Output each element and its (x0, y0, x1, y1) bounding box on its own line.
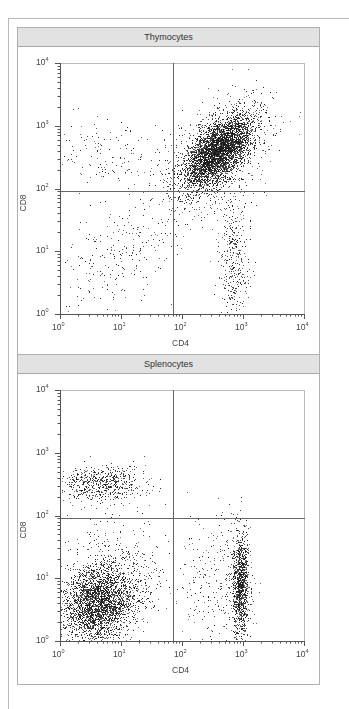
splenocytes-y-axis-label: CD8 (18, 521, 28, 538)
y-tick-label: 103 (36, 446, 49, 457)
y-tick-label: 103 (36, 119, 49, 130)
y-tick-label: 100 (36, 634, 49, 645)
thymocytes-x-axis-label: CD4 (172, 338, 189, 348)
x-tick-label: 102 (174, 321, 187, 332)
x-tick-label: 101 (113, 648, 126, 659)
y-tick-label: 100 (36, 307, 49, 318)
y-tick-label: 102 (36, 182, 49, 193)
y-tick-label: 101 (36, 244, 49, 255)
y-tick-label: 104 (36, 383, 49, 394)
x-tick-label: 102 (174, 648, 187, 659)
thymocytes-y-axis-label: CD8 (18, 194, 28, 211)
x-tick-label: 100 (52, 648, 65, 659)
splenocytes-x-axis-label: CD4 (172, 665, 189, 675)
x-tick-label: 100 (52, 321, 65, 332)
thymocytes-scatter-plot (18, 28, 319, 354)
x-tick-label: 103 (235, 648, 248, 659)
y-tick-label: 102 (36, 509, 49, 520)
y-tick-label: 101 (36, 571, 49, 582)
splenocytes-panel: Splenocytes CD8 CD4 10010010110110210210… (17, 354, 320, 685)
thymocytes-panel: Thymocytes CD8 CD4 100100101101102102103… (17, 27, 320, 355)
y-tick-label: 104 (36, 56, 49, 67)
splenocytes-scatter-plot (18, 355, 319, 684)
x-tick-label: 103 (235, 321, 248, 332)
x-tick-label: 104 (296, 648, 309, 659)
x-tick-label: 104 (296, 321, 309, 332)
x-tick-label: 101 (113, 321, 126, 332)
